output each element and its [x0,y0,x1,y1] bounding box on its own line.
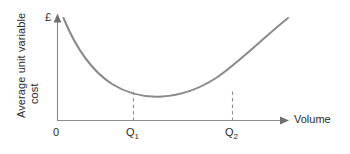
q1-base: Q [126,126,135,138]
average-unit-variable-cost-curve [64,18,289,97]
x-tick-label-q2: Q2 [225,127,238,141]
x-axis-arrow-icon [280,117,289,125]
x-axis-label: Volume [294,114,331,125]
q2-base: Q [225,126,234,138]
y-axis-currency-label: £ [45,12,51,23]
y-axis-label-line2: cost [29,83,40,104]
x-tick-label-q1: Q1 [126,127,139,141]
origin-tick-label: 0 [53,127,59,138]
y-axis-label-line1: Average unit variable [16,13,27,118]
q1-subscript: 1 [135,132,139,141]
chart-figure: Average unit variable cost £ Volume 0 Q1… [0,0,350,154]
q2-subscript: 2 [234,132,238,141]
y-axis-arrow-icon [54,14,62,23]
